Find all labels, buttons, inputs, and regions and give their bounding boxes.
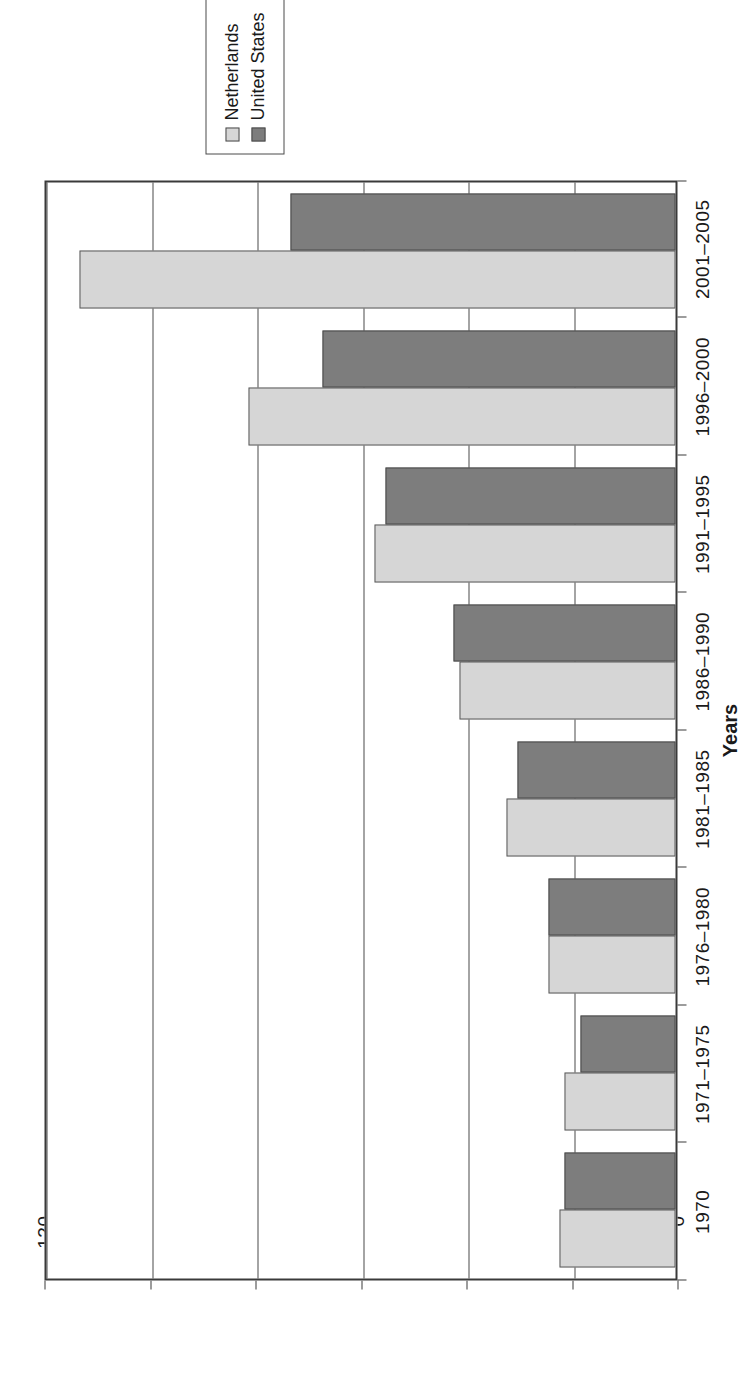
bar-chart: Number 020406080100120 19701971–19751976… [0, 0, 751, 1389]
bar-netherlands[interactable] [548, 936, 675, 994]
bar-group [46, 1004, 675, 1141]
value-axis-tick [466, 1280, 467, 1289]
value-axis-tick [44, 1280, 45, 1289]
bar-united-states[interactable] [322, 330, 675, 388]
bar-netherlands[interactable] [564, 1073, 675, 1131]
bar-group [46, 319, 675, 456]
legend-swatch-united-states [251, 127, 265, 141]
value-axis-tick [677, 1280, 678, 1289]
bar-united-states[interactable] [580, 1015, 675, 1073]
value-axis-tick [572, 1280, 573, 1289]
bar-group [46, 456, 675, 593]
bar-netherlands[interactable] [374, 525, 675, 583]
legend: NetherlandsUnited States [205, 0, 284, 154]
category-axis-title: Years [718, 180, 741, 1280]
bar-groups [46, 182, 675, 1278]
bar-united-states[interactable] [517, 741, 675, 799]
bar-united-states[interactable] [548, 878, 675, 936]
chart-page: Number 020406080100120 19701971–19751976… [0, 0, 751, 1389]
legend-label: Netherlands [221, 23, 242, 120]
value-axis-tick [255, 1280, 256, 1289]
bar-united-states[interactable] [564, 1152, 675, 1210]
bar-netherlands[interactable] [248, 388, 675, 446]
bar-group [46, 867, 675, 1004]
bar-netherlands[interactable] [559, 1210, 675, 1268]
plot-area [44, 180, 677, 1280]
value-axis-tick [150, 1280, 151, 1289]
bar-group [46, 593, 675, 730]
rotated-chart-canvas: Number 020406080100120 19701971–19751976… [0, 0, 751, 1389]
legend-swatch-netherlands [225, 127, 239, 141]
bar-group [46, 182, 675, 319]
bar-netherlands[interactable] [506, 799, 675, 857]
bar-group [46, 1141, 675, 1278]
legend-label: United States [247, 12, 268, 120]
bar-united-states[interactable] [453, 604, 675, 662]
bar-united-states[interactable] [385, 467, 675, 525]
value-axis-tick [361, 1280, 362, 1289]
legend-item[interactable]: Netherlands [221, 12, 242, 141]
bar-united-states[interactable] [290, 193, 675, 251]
bar-netherlands[interactable] [459, 662, 675, 720]
bar-netherlands[interactable] [79, 251, 675, 309]
legend-item[interactable]: United States [247, 12, 268, 141]
bar-group [46, 730, 675, 867]
